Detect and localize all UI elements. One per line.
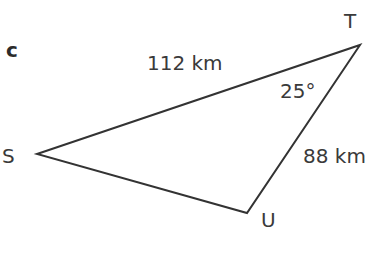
vertex-label-S: S [2,146,15,166]
angle-label-T: 25° [280,81,315,101]
part-label: c [6,40,18,60]
side-label-ST: 112 km [147,53,223,73]
triangle-diagram [0,0,374,270]
vertex-label-U: U [261,210,276,230]
vertex-label-T: T [344,11,356,31]
side-label-TU: 88 km [303,146,366,166]
